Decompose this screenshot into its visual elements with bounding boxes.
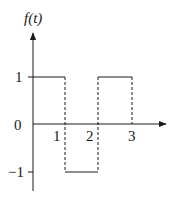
y-tick-label-neg1: −1 bbox=[8, 164, 24, 180]
x-tick-label-3: 3 bbox=[128, 128, 136, 144]
y-tick-label-0: 0 bbox=[14, 117, 22, 133]
y-tick-label-1: 1 bbox=[15, 69, 23, 85]
x-tick-label-1: 1 bbox=[53, 128, 61, 144]
y-axis-label: f(t) bbox=[24, 10, 42, 27]
x-tick-label-2: 2 bbox=[86, 128, 94, 144]
square-wave-diagram: f(t) 1 0 −1 1 2 3 bbox=[0, 0, 178, 206]
